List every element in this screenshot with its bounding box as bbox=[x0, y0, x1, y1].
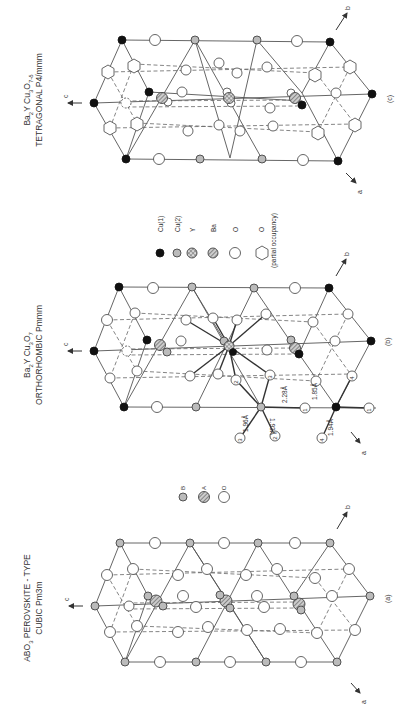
a-axis-label: a bbox=[360, 700, 367, 704]
svg-text:2.28Å: 2.28Å bbox=[280, 385, 288, 403]
o-partial-hex bbox=[128, 59, 140, 73]
o-site-1: 1 bbox=[300, 403, 310, 413]
svg-text:O: O bbox=[258, 227, 265, 232]
c-axis-label: c bbox=[63, 597, 70, 601]
o-site-4: 4 bbox=[347, 371, 357, 381]
svg-text:A: A bbox=[201, 486, 207, 490]
panel-label: (c) bbox=[386, 95, 394, 103]
panel-label: (a) bbox=[384, 594, 392, 603]
b-axis-label: b bbox=[344, 505, 351, 509]
c-axis-label: c bbox=[62, 342, 69, 346]
svg-text:Cu(2): Cu(2) bbox=[174, 216, 182, 232]
panel-a-title: ABO3 PEROVSKITE - TYPE CUBIC Pm3m bbox=[22, 554, 44, 662]
svg-text:1.96Å: 1.96Å bbox=[241, 414, 249, 432]
svg-text:TETRAGONAL P4/mmm: TETRAGONAL P4/mmm bbox=[34, 53, 44, 147]
b-axis-arrow bbox=[337, 512, 347, 529]
panel-b-title: Ba2Y Cu3O7 ORTHORHOMBIC Pmmm bbox=[22, 305, 44, 405]
panel-b: Ba2Y Cu3O7 ORTHORHOMBIC Pmmm c b a (b) bbox=[22, 252, 392, 455]
svg-text:Ba2Y Cu3O7-δ: Ba2Y Cu3O7-δ bbox=[22, 74, 34, 126]
o-partial-hex bbox=[344, 60, 356, 74]
b-axis-arrow bbox=[336, 13, 347, 30]
b-axis-label: b bbox=[344, 6, 351, 10]
bond-length-labels: 1.96Å 1.93Å 2.28Å 1.85Å 1.94Å bbox=[241, 382, 334, 436]
o-partial-hex bbox=[104, 121, 116, 135]
svg-text:B: B bbox=[180, 486, 186, 490]
b-axis-arrow bbox=[336, 259, 346, 276]
a-axis-label: a bbox=[356, 190, 363, 194]
o-partial-hex bbox=[102, 65, 114, 79]
svg-text:1.94Å: 1.94Å bbox=[326, 418, 334, 436]
svg-text:O: O bbox=[232, 227, 239, 232]
o-partial-hex bbox=[312, 126, 324, 140]
svg-text:CUBIC Pm3m: CUBIC Pm3m bbox=[34, 581, 44, 634]
o-site-3: 3 bbox=[265, 370, 275, 380]
svg-text:Ba: Ba bbox=[210, 224, 217, 232]
panel-c: Ba2Y Cu3O7-δ TETRAGONAL P4/mmm c b a (c) bbox=[22, 6, 394, 268]
o-site-1: 1 bbox=[364, 403, 374, 413]
legend-ybco: Cu(1) Cu(2) Y Ba O O (partial occupancy) bbox=[156, 213, 278, 268]
svg-text:1.93Å: 1.93Å bbox=[269, 418, 277, 436]
crystal-structure-figure: Ba2Y Cu3O7-δ TETRAGONAL P4/mmm c b a (c) bbox=[0, 0, 406, 710]
svg-text:O: O bbox=[221, 485, 227, 490]
a-axis-label: a bbox=[360, 451, 367, 455]
svg-text:Ba2Y Cu3O7: Ba2Y Cu3O7 bbox=[22, 331, 34, 377]
svg-text:1.85Å: 1.85Å bbox=[310, 382, 318, 400]
panel-a: ABO3 PEROVSKITE - TYPE CUBIC Pm3m B A O … bbox=[22, 485, 392, 704]
svg-text:ABO3 PEROVSKITE - TYPE: ABO3 PEROVSKITE - TYPE bbox=[22, 554, 34, 662]
a-axis-arrow bbox=[351, 432, 360, 443]
c-axis-label: c bbox=[62, 94, 69, 98]
svg-text:Y: Y bbox=[189, 227, 196, 232]
b-axis-label: b bbox=[343, 252, 350, 256]
svg-text:ORTHORHOMBIC Pmmm: ORTHORHOMBIC Pmmm bbox=[34, 305, 44, 405]
o-site-2: 2 bbox=[231, 375, 241, 385]
panel-c-title: Ba2Y Cu3O7-δ TETRAGONAL P4/mmm bbox=[22, 53, 44, 147]
a-axis-arrow bbox=[346, 173, 356, 183]
a-axis-arrow bbox=[351, 683, 360, 693]
o-site-4: 4 bbox=[317, 433, 327, 443]
o-site-3: 3 bbox=[235, 433, 245, 443]
legend-perovskite: B A O bbox=[179, 485, 230, 502]
o-partial-hex bbox=[131, 117, 143, 131]
svg-text:Cu(1): Cu(1) bbox=[157, 216, 165, 232]
o-partial-hex bbox=[349, 118, 361, 132]
svg-text:(partial occupancy): (partial occupancy) bbox=[270, 213, 278, 268]
o-partial-hex bbox=[309, 68, 321, 82]
panel-label: (b) bbox=[384, 337, 392, 346]
